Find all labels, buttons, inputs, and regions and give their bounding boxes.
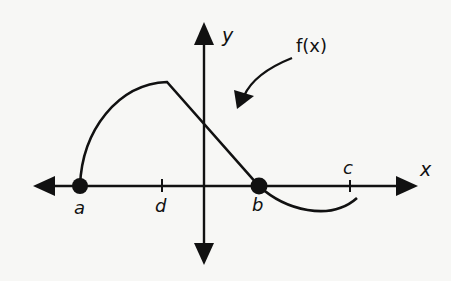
point-d-label: d [155, 197, 166, 215]
point-c-label: c [343, 159, 353, 177]
y-axis-down-arrow-icon [194, 243, 214, 265]
y-axis-label: y [222, 26, 233, 45]
y-axis [194, 22, 214, 265]
function-graph-diagram: y x f(x) a d b c [0, 0, 451, 281]
function-annotation-arrow-icon [234, 58, 292, 109]
point-a-label: a [74, 199, 85, 217]
y-axis-up-arrow-icon [194, 22, 214, 45]
point-b-dot [251, 178, 268, 195]
function-curve [80, 82, 357, 211]
x-axis-right-arrow-icon [396, 176, 418, 196]
function-label: f(x) [296, 37, 327, 55]
x-axis [33, 176, 418, 196]
x-axis-left-arrow-icon [33, 176, 55, 196]
point-b-label: b [252, 196, 263, 214]
point-a-dot [72, 178, 88, 194]
x-axis-label: x [420, 160, 431, 179]
